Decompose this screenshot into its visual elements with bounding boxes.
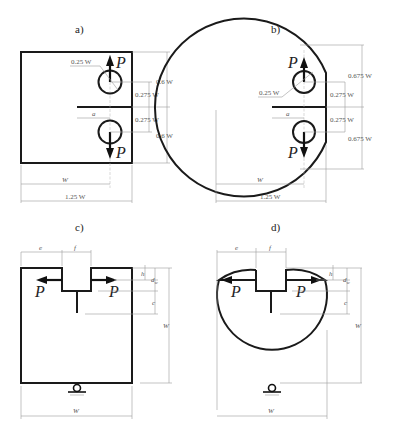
panel-a-force-bottom: P — [115, 144, 126, 161]
panel-b-dim-hole-offset-top: 0.275 W — [330, 91, 354, 99]
panel-c-dim-width: W — [73, 407, 80, 415]
panel-c-dim-e: e — [39, 244, 42, 252]
panel-a-dim-crack-length: a — [92, 110, 96, 118]
panel-b-force-top: P — [287, 54, 298, 71]
panel-b-bottom-arrow-icon — [300, 147, 308, 158]
panel-b: b) P P 0.25 W 0.675 W 0.275 W 0.275 W 0.… — [155, 18, 372, 203]
panel-a: a) P P 0.25 W 0.6 W 0.275 W 0.275 W 0.6 … — [21, 23, 173, 203]
panel-a-dim-W: W — [62, 176, 69, 184]
panel-c-dim-h: h — [141, 270, 145, 278]
panel-b-dim-total-width: 1.25 W — [260, 193, 281, 201]
panel-a-dim-hole-diameter: 0.25 W — [71, 58, 92, 66]
panel-d-force-left: P — [230, 283, 241, 300]
panel-d-dim-width: W — [268, 407, 275, 415]
panel-b-dim-hole-diameter: 0.25 W — [259, 89, 280, 97]
panel-a-force-top: P — [115, 54, 126, 71]
panel-a-top-arrow-icon — [106, 55, 114, 66]
panel-b-dim-hole-offset-bottom: 0.275 W — [330, 116, 354, 124]
panel-d-dim-h: h — [329, 270, 333, 278]
panel-d-dim-e: e — [235, 244, 238, 252]
panel-c: c) P P e f h dw c W — [21, 221, 172, 419]
panel-b-dim-W: W — [257, 176, 264, 184]
panel-d-dim-f: f — [269, 244, 272, 252]
panel-d-dim-c: c — [344, 299, 348, 307]
panel-b-dim-bottom-height: 0.675 W — [348, 135, 372, 143]
panel-b-force-bottom: P — [287, 144, 298, 161]
panel-c-dim-c: c — [152, 299, 156, 307]
panel-b-top-arrow-icon — [300, 57, 308, 68]
panel-b-dim-crack-length: a — [286, 110, 290, 118]
panel-c-dim-f: f — [74, 244, 77, 252]
panel-c-label: c) — [75, 221, 84, 234]
panel-b-dim-top-height: 0.675 W — [348, 72, 372, 80]
panel-a-label: a) — [75, 23, 84, 36]
panel-c-roller-support-icon — [74, 385, 81, 392]
panel-c-force-right: P — [108, 283, 119, 300]
panel-d-force-right: P — [295, 283, 306, 300]
panel-a-dim-total-width: 1.25 W — [65, 193, 86, 201]
panel-d: d) P P e f h dw c W W — [217, 221, 362, 419]
specimen-geometry-figure: a) P P 0.25 W 0.6 W 0.275 W 0.275 W 0.6 … — [0, 0, 394, 435]
panel-d-label: d) — [271, 221, 281, 234]
panel-c-force-left: P — [34, 283, 45, 300]
panel-a-bottom-arrow-icon — [106, 148, 114, 159]
panel-d-roller-support-icon — [269, 385, 276, 392]
